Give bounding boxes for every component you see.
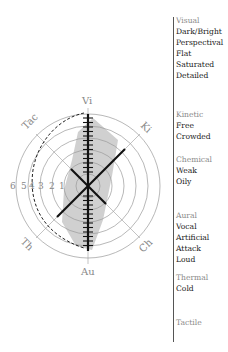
legend-group-tactile: Tactile <box>176 317 228 328</box>
ring-label-6: 6 <box>10 181 16 191</box>
legend-item: Dark/Bright <box>176 26 228 37</box>
legend-title: Thermal <box>176 272 228 283</box>
ring-label-1: 1 <box>59 181 65 191</box>
legend-group-visual: Visual Dark/Bright Perspectival Flat Sat… <box>176 15 228 109</box>
legend-item: Artificial <box>176 232 228 243</box>
legend-item: Perspectival <box>176 37 228 48</box>
legend-title: Kinetic <box>176 109 228 120</box>
axis-label-au: Au <box>80 266 95 277</box>
legend-item: Free <box>176 120 228 131</box>
legend-divider <box>173 17 174 342</box>
legend-group-chemical: Chemical Weak Oily <box>176 154 228 210</box>
legend-item: Oily <box>176 176 228 187</box>
ring-label-2: 2 <box>49 181 55 191</box>
legend-item: Detailed <box>176 70 228 81</box>
legend-title: Chemical <box>176 154 228 165</box>
legend-group-kinetic: Kinetic Free Crowded <box>176 109 228 154</box>
legend-item: Loud <box>176 254 228 265</box>
axis-label-tac: Tac <box>20 111 40 131</box>
legend-group-aural: Aural Vocal Artificial Attack Loud <box>176 210 228 272</box>
legend-item: Crowded <box>176 131 228 142</box>
ring-label-5: 5 <box>21 181 27 191</box>
legend-item: Vocal <box>176 221 228 232</box>
legend-title: Aural <box>176 210 228 221</box>
legend-title: Tactile <box>176 317 228 328</box>
legend-group-thermal: Thermal Cold <box>176 272 228 317</box>
ring-label-4: 4 <box>29 181 35 191</box>
axis-label-th: Th <box>19 236 36 253</box>
legend-item: Attack <box>176 243 228 254</box>
legend-title: Visual <box>176 15 228 26</box>
axis-label-ch: Ch <box>137 236 155 254</box>
legend-item: Cold <box>176 283 228 294</box>
axis-label-ki: Ki <box>139 120 154 135</box>
ring-label-3: 3 <box>38 181 44 191</box>
radar-chart: Vi Au Ki Ch Th Tac 6 5 4 3 2 1 <box>0 0 172 352</box>
legend-item: Saturated <box>176 59 228 70</box>
legend: Visual Dark/Bright Perspectival Flat Sat… <box>176 15 228 328</box>
legend-item: Flat <box>176 48 228 59</box>
legend-item: Weak <box>176 165 228 176</box>
axis-label-vi: Vi <box>81 95 92 106</box>
